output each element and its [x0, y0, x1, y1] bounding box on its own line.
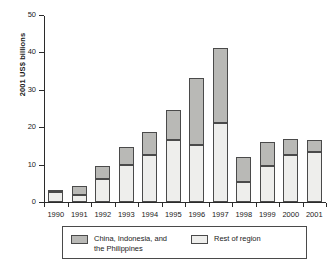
bar: [72, 186, 87, 202]
x-axis-tick-label: 1994: [141, 210, 158, 219]
y-axis-tick-label: 30: [28, 85, 36, 94]
y-axis-tick-label: 40: [28, 47, 36, 56]
x-axis-tick: [209, 203, 210, 207]
x-axis-tick-label: 1990: [47, 210, 64, 219]
dark-gray-swatch: [71, 235, 88, 244]
x-axis-tick: [91, 203, 92, 207]
y-axis-tick: 50: [39, 15, 44, 16]
y-axis-label: 2001 US$ billions: [18, 0, 27, 135]
bar-segment: [236, 157, 251, 182]
bar: [189, 78, 204, 202]
bar-segment: [119, 147, 134, 165]
bar: [48, 190, 63, 202]
x-axis-tick: [185, 203, 186, 207]
x-axis-tick-label: 1991: [71, 210, 88, 219]
bar-segment: [283, 139, 298, 155]
y-axis-tick-label: 10: [28, 160, 36, 169]
bar: [260, 142, 275, 202]
x-axis-tick: [326, 203, 327, 207]
bar-segment: [95, 166, 110, 179]
light-gray-swatch: [191, 235, 208, 244]
bar: [166, 110, 181, 202]
bar-segment: [213, 123, 228, 202]
bar-segment: [142, 155, 157, 202]
x-axis-tick-label: 1998: [235, 210, 252, 219]
x-axis-tick-label: 1993: [118, 210, 135, 219]
x-axis-tick: [256, 203, 257, 207]
x-axis-tick-label: 1999: [259, 210, 276, 219]
x-axis-tick-label: 1997: [212, 210, 229, 219]
legend-entry-rest-of-region: Rest of region: [191, 234, 261, 244]
x-axis-tick-label: 1996: [188, 210, 205, 219]
stacked-bar-chart: 2001 US$ billions 01020304050 1990199119…: [0, 0, 335, 269]
chart-legend: China, Indonesia, and the Philippines Re…: [62, 226, 307, 259]
x-axis-tick: [303, 203, 304, 207]
bar-segment: [48, 192, 63, 202]
bar-segment: [119, 165, 134, 202]
legend-label-china-indonesia-philippines: China, Indonesia, and the Philippines: [94, 234, 167, 254]
bar-segment: [189, 78, 204, 145]
x-axis-tick: [115, 203, 116, 207]
y-axis-tick: 40: [39, 52, 44, 53]
bar-segment: [142, 132, 157, 155]
legend-entry-china-indonesia-philippines: China, Indonesia, and the Philippines: [71, 234, 167, 254]
bar-segment: [213, 48, 228, 122]
bar: [283, 139, 298, 202]
bar-segment: [260, 142, 275, 166]
bar-segment: [307, 140, 322, 153]
x-axis-tick: [44, 203, 45, 207]
y-axis-tick-label: 0: [32, 197, 36, 206]
bar: [95, 166, 110, 202]
bar-segment: [72, 195, 87, 202]
plot-area: 01020304050 1990199119921993199419951996…: [44, 16, 326, 203]
y-axis-tick-label: 20: [28, 122, 36, 131]
x-axis-tick: [232, 203, 233, 207]
bar-segment: [95, 179, 110, 202]
x-axis-tick: [138, 203, 139, 207]
y-axis-tick: 20: [39, 127, 44, 128]
y-axis-tick: 30: [39, 90, 44, 91]
bar-segment: [48, 190, 63, 192]
bar: [213, 48, 228, 202]
bar-segment: [283, 155, 298, 202]
bar-segment: [260, 166, 275, 202]
x-axis-tick: [162, 203, 163, 207]
bar: [142, 132, 157, 202]
bar-segment: [307, 152, 322, 202]
bar-segment: [166, 110, 181, 140]
y-axis-tick-label: 50: [28, 10, 36, 19]
legend-label-rest-of-region: Rest of region: [214, 234, 261, 244]
bar-segment: [72, 186, 87, 194]
bar: [307, 140, 322, 202]
bar: [236, 157, 251, 202]
x-axis-tick: [68, 203, 69, 207]
x-axis-tick-label: 1992: [94, 210, 111, 219]
bar-segment: [166, 140, 181, 202]
bar-segment: [236, 182, 251, 202]
y-axis-tick: 10: [39, 165, 44, 166]
bar-segment: [189, 145, 204, 202]
x-axis-tick-label: 2000: [282, 210, 299, 219]
x-axis-tick-label: 1995: [165, 210, 182, 219]
y-axis-line: [44, 16, 45, 203]
x-axis-tick: [279, 203, 280, 207]
x-axis-tick-label: 2001: [306, 210, 323, 219]
bar: [119, 147, 134, 202]
